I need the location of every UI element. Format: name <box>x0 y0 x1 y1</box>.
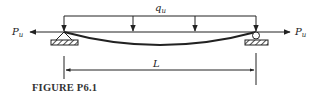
span-label: L <box>152 58 160 69</box>
figure: qu Pu Pu L FIGURE P6.1 <box>0 0 316 101</box>
figure-caption: FIGURE P6.1 <box>32 82 97 93</box>
span-dimension <box>64 53 256 85</box>
axial-load-label-left: Pu <box>11 26 24 39</box>
deflected-beam <box>64 32 256 45</box>
axial-load-label-right: Pu <box>294 26 307 39</box>
load-label-qu: qu <box>155 2 166 15</box>
distributed-load <box>64 16 256 31</box>
